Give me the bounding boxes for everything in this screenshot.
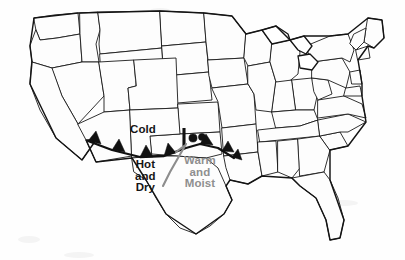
us-map-svg [0,0,405,260]
weather-front-map-figure: Cold Hot and Dry Warm and Moist [0,0,405,260]
state-borders-group [30,11,384,240]
